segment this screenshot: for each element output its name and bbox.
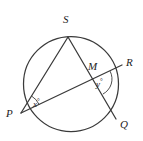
angle-label-x: x° — [33, 98, 40, 109]
vertex-label-q: Q — [120, 119, 128, 130]
vertex-label-r: R — [126, 57, 133, 68]
angle-label-y-degree: ° — [100, 77, 103, 85]
geometry-figure: S P R Q M x° y° — [0, 0, 143, 141]
vertex-label-p: P — [6, 108, 13, 119]
chord-sq — [68, 37, 116, 119]
angle-label-x-degree: ° — [37, 97, 40, 105]
vertex-label-m: M — [88, 61, 97, 72]
circle-outline — [24, 37, 119, 132]
vertex-label-s: S — [63, 14, 69, 25]
angle-label-y: y° — [96, 78, 103, 89]
angle-arc-y — [103, 71, 112, 94]
